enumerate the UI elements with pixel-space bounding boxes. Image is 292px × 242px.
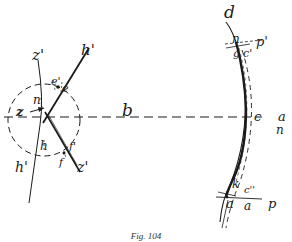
label-k: k: [232, 177, 239, 191]
label-a-right: a: [278, 109, 286, 124]
label-n: n: [33, 93, 41, 107]
label-z-prime-top: z': [31, 46, 44, 64]
label-z: z: [15, 104, 24, 119]
figure-caption: Fig. 104: [130, 231, 162, 241]
axis-label-b: b: [122, 100, 133, 120]
label-c-double-prime: c'': [244, 184, 255, 195]
label-z-prime-bottom: z': [76, 159, 88, 175]
line-z-prime: [29, 60, 42, 203]
label-h-prime-top: h': [81, 41, 95, 59]
left-construction: z' h' e' e n z h f' f h' z': [8, 41, 95, 203]
label-e-prime: e': [51, 75, 61, 88]
label-c-prime: c': [243, 47, 252, 60]
right-construction: d n p' g c' c a n k c'' p a a: [216, 2, 286, 228]
label-h-prime-bottom: h': [15, 159, 28, 175]
label-c: c: [254, 109, 262, 124]
label-p-prime: p': [256, 34, 268, 49]
label-h: h: [40, 139, 48, 153]
label-n-right: n: [276, 123, 284, 137]
label-a-left: a: [226, 196, 234, 211]
label-a-bottom: a: [244, 199, 251, 213]
label-f-prime: f': [68, 140, 76, 153]
tangent-lower: [216, 197, 262, 199]
main-curve-thick: [226, 42, 246, 196]
label-e: e: [62, 82, 69, 95]
label-p: p: [268, 196, 277, 211]
optics-diagram: b z' h' e' e n z h f' f h' z': [0, 0, 292, 242]
label-f: f: [58, 156, 65, 169]
label-n-top: n: [232, 32, 240, 46]
label-g: g: [233, 47, 240, 60]
point-f: [63, 152, 66, 155]
label-d: d: [224, 2, 235, 22]
